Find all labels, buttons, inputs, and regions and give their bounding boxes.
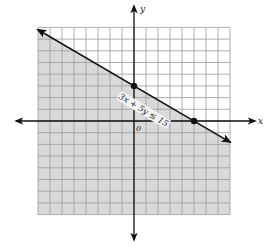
origin-label: 0: [136, 124, 141, 133]
x-axis-label: x: [258, 116, 263, 126]
x-intercept-point: [191, 118, 197, 124]
y-axis-label: y: [139, 4, 146, 14]
inequality-graph: yx03x + 5y ≤ 15: [0, 0, 269, 247]
y-intercept-point: [131, 83, 137, 89]
